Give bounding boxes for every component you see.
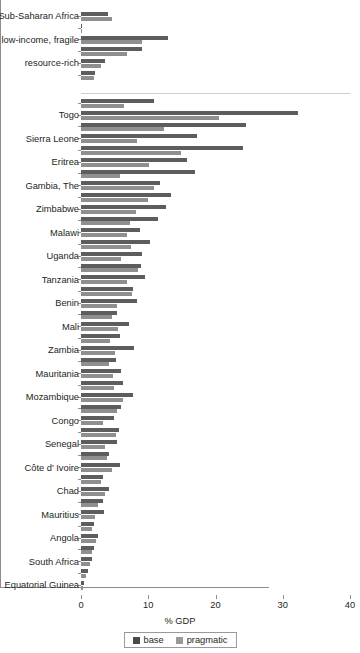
y-axis-tick xyxy=(78,338,81,339)
y-axis-tick xyxy=(78,573,81,574)
bar-pragmatic xyxy=(81,480,101,484)
bar-group xyxy=(81,393,350,402)
y-axis-tick xyxy=(78,408,81,409)
bar-pragmatic xyxy=(81,421,103,425)
bar-base xyxy=(81,170,195,174)
bar-group xyxy=(81,334,350,343)
legend-label-pragmatic: pragmatic xyxy=(187,635,228,645)
y-axis-label: Zimbabwe xyxy=(36,204,79,214)
bar-base xyxy=(81,581,84,585)
y-axis-line xyxy=(0,0,1,587)
bar-pragmatic xyxy=(81,409,117,413)
bar-group xyxy=(81,275,350,284)
bar-group xyxy=(81,428,350,437)
bar-pragmatic xyxy=(81,257,121,261)
bar-base xyxy=(81,440,117,444)
bar-base xyxy=(81,111,298,115)
y-axis-label: Mali xyxy=(62,322,79,332)
y-axis-tick xyxy=(78,197,81,198)
y-axis-label: South Africa xyxy=(29,557,79,567)
bar-group xyxy=(81,111,350,120)
bar-group xyxy=(81,134,350,143)
bar-pragmatic xyxy=(81,76,94,80)
bar-group xyxy=(81,346,350,355)
bar-group xyxy=(81,228,350,237)
bar-pragmatic xyxy=(81,386,114,390)
bar-base xyxy=(81,47,142,51)
y-axis-label: Chad xyxy=(57,486,79,496)
bar-pragmatic xyxy=(81,327,118,331)
bar-pragmatic xyxy=(81,374,113,378)
bar-base xyxy=(81,287,133,291)
bar-pragmatic xyxy=(81,398,123,402)
y-axis-label: Mozambique xyxy=(26,392,79,402)
y-axis-tick xyxy=(78,455,81,456)
bar-group xyxy=(81,499,350,508)
x-axis-tick-label: 20 xyxy=(201,600,231,611)
y-axis-label: Zambia xyxy=(48,345,79,355)
bar-pragmatic xyxy=(81,456,107,460)
bar-base xyxy=(81,358,116,362)
bar-group xyxy=(81,99,350,108)
y-axis-tick xyxy=(78,361,81,362)
bar-group xyxy=(81,369,350,378)
bar-pragmatic xyxy=(81,492,105,496)
bar-pragmatic xyxy=(81,339,110,343)
y-axis-label: Malawi xyxy=(50,228,79,238)
bar-base xyxy=(81,240,150,244)
bar-pragmatic xyxy=(81,586,83,590)
bar-group xyxy=(81,534,350,543)
y-axis-tick xyxy=(78,385,81,386)
bar-base xyxy=(81,252,142,256)
y-axis-tick xyxy=(78,126,81,127)
bar-base xyxy=(81,510,104,514)
bar-pragmatic xyxy=(81,174,120,178)
bar-pragmatic xyxy=(81,268,138,272)
x-axis-tick xyxy=(350,595,351,599)
bar-base xyxy=(81,158,187,162)
x-axis-tick-label: 0 xyxy=(66,600,96,611)
bar-group xyxy=(81,205,350,214)
y-axis-label: Mauritania xyxy=(36,369,79,379)
x-axis-tick-label: 40 xyxy=(335,600,360,611)
bar-group xyxy=(81,487,350,496)
y-axis-label: Sub-Saharan Africa xyxy=(0,11,79,21)
bar-group xyxy=(81,581,350,590)
bar-base xyxy=(81,381,123,385)
bar-group xyxy=(81,522,350,531)
bar-pragmatic xyxy=(81,17,112,21)
y-axis-tick xyxy=(78,432,81,433)
legend-label-base: base xyxy=(144,635,164,645)
y-axis-tick xyxy=(78,75,81,76)
bar-base xyxy=(81,228,140,232)
bar-pragmatic xyxy=(81,550,92,554)
bar-group xyxy=(81,546,350,555)
bar-pragmatic xyxy=(81,574,86,578)
section-divider xyxy=(81,93,350,94)
bar-group xyxy=(81,193,350,202)
bar-pragmatic xyxy=(81,515,95,519)
bar-base xyxy=(81,59,105,63)
bar-group xyxy=(81,47,350,56)
bar-base xyxy=(81,499,103,503)
y-axis-label: Togo xyxy=(59,110,79,120)
bar-base xyxy=(81,205,166,209)
bar-base xyxy=(81,405,121,409)
bar-base xyxy=(81,12,108,16)
x-axis-tick-label: 10 xyxy=(133,600,163,611)
y-axis-tick xyxy=(78,267,81,268)
bar-pragmatic xyxy=(81,116,219,120)
bar-group xyxy=(81,252,350,261)
bar-group xyxy=(81,24,350,33)
y-axis-label: resource-rich xyxy=(25,58,79,68)
bar-pragmatic xyxy=(81,163,149,167)
bar-group xyxy=(81,59,350,68)
bar-base xyxy=(81,487,109,491)
bar-base xyxy=(81,123,246,127)
bar-pragmatic xyxy=(81,104,124,108)
y-axis-label: Tanzania xyxy=(42,275,79,285)
bar-pragmatic xyxy=(81,503,98,507)
legend-box: base pragmatic xyxy=(124,632,237,648)
bar-group xyxy=(81,322,350,331)
bar-group xyxy=(81,123,350,132)
